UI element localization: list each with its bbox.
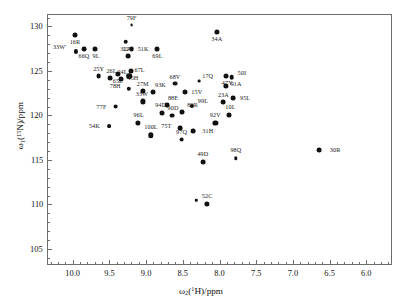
y-axis-minor-tick	[47, 258, 50, 259]
peak-label: 67L	[134, 67, 144, 73]
x-axis-tick-label: 10.0	[65, 269, 80, 278]
x-axis-major-tick	[109, 260, 110, 265]
x-axis-minor-tick	[58, 262, 59, 265]
y-axis-tick-label: 105	[30, 244, 43, 253]
peak-marker	[224, 73, 229, 78]
x-axis-minor-tick	[197, 262, 198, 265]
x-axis-minor-tick	[190, 262, 191, 265]
y-axis-minor-tick	[47, 98, 50, 99]
peak-label: 77F	[97, 104, 107, 110]
peak-label: 75T	[161, 123, 171, 129]
x-axis-major-tick	[256, 260, 257, 265]
y-axis-minor-tick	[47, 142, 50, 143]
x-axis-minor-tick	[322, 262, 323, 265]
peak-marker	[96, 74, 101, 79]
peak-marker	[128, 69, 133, 74]
y-axis-minor-tick	[47, 196, 50, 197]
peak-marker	[316, 148, 321, 153]
y-axis-minor-tick	[47, 124, 50, 125]
peak-label: 100L	[144, 124, 157, 130]
x-axis-minor-tick	[249, 262, 250, 265]
x-axis-minor-tick	[117, 262, 118, 265]
peak-label: 96L	[134, 112, 144, 118]
peak-marker	[150, 89, 155, 94]
peak-label: 50I	[238, 70, 247, 76]
y-axis-subscript: 1	[19, 140, 26, 143]
peak-marker	[214, 29, 219, 34]
peak-label: 45H	[127, 75, 138, 81]
peak-marker	[113, 104, 118, 109]
peak-label: 23A	[218, 92, 229, 98]
x-axis-major-tick	[73, 260, 74, 265]
x-axis-minor-tick	[124, 262, 125, 265]
y-axis-nucleus: N	[15, 124, 25, 131]
nmr-hsqc-spectrum-figure: 52C49D98Q30R100L97Q75T31H54K96L92V94D90D…	[0, 0, 402, 299]
x-axis-minor-tick	[227, 262, 228, 265]
peak-marker	[165, 102, 170, 107]
y-axis-major-tick	[47, 26, 52, 27]
peak-label: 66Q	[78, 53, 89, 59]
x-axis-minor-tick	[95, 262, 96, 265]
x-axis-minor-tick	[278, 262, 279, 265]
peak-label: 15V	[191, 89, 202, 95]
y-axis-minor-tick	[47, 240, 50, 241]
x-axis-major-tick	[183, 260, 184, 265]
plot-frame: 52C49D98Q30R100L97Q75T31H54K96L92V94D90D…	[47, 14, 392, 265]
peak-label: 98Q	[230, 147, 241, 153]
peak-marker	[170, 113, 175, 118]
x-axis-minor-tick	[102, 262, 103, 265]
peak-marker	[107, 124, 111, 128]
peak-label: 16R	[70, 39, 81, 45]
y-axis-mass-number: 15	[14, 131, 21, 137]
x-axis-minor-tick	[212, 262, 213, 265]
x-axis-units: )/ppm	[201, 286, 223, 296]
x-axis-minor-tick	[168, 262, 169, 265]
x-axis-minor-tick	[337, 262, 338, 265]
y-axis-minor-tick	[47, 213, 50, 214]
peak-marker	[173, 81, 178, 86]
y-axis-tick-label: 125	[30, 66, 43, 75]
peak-marker	[73, 32, 78, 37]
peak-label: 49D	[197, 151, 208, 157]
y-axis-minor-tick	[47, 151, 50, 152]
peak-marker	[135, 120, 140, 125]
peak-label: 30R	[330, 147, 341, 153]
y-axis-minor-tick	[47, 133, 50, 134]
peak-marker	[195, 199, 197, 201]
y-axis-minor-tick	[47, 222, 50, 223]
y-axis-label: ω1(15N)/ppm	[14, 66, 25, 186]
peak-label: 32A	[120, 46, 131, 52]
peak-marker	[180, 110, 185, 115]
peak-label: 47Y	[222, 80, 233, 86]
peak-label: 68V	[169, 74, 180, 80]
x-axis-minor-tick	[308, 262, 309, 265]
peak-marker	[231, 95, 236, 100]
x-axis-minor-tick	[80, 262, 81, 265]
x-axis-minor-tick	[388, 262, 389, 265]
peak-label: 88E	[168, 95, 178, 101]
x-axis-minor-tick	[205, 262, 206, 265]
x-axis-minor-tick	[242, 262, 243, 265]
y-axis-major-tick	[47, 115, 52, 116]
peak-label: 79F	[127, 15, 137, 21]
peak-marker	[127, 87, 131, 91]
peak-label: 52C	[202, 193, 213, 199]
y-axis-minor-tick	[47, 187, 50, 188]
peak-marker	[92, 46, 97, 51]
x-axis-major-tick	[330, 260, 331, 265]
x-axis-tick-label: 9.5	[104, 269, 114, 278]
peak-label: 51K	[138, 46, 149, 52]
peak-label: 9L	[92, 53, 99, 59]
y-axis-minor-tick	[47, 107, 50, 108]
x-axis-tick-label: 6.5	[324, 269, 334, 278]
x-axis-major-tick	[146, 260, 147, 265]
y-axis-major-tick	[47, 204, 52, 205]
x-axis-minor-tick	[344, 262, 345, 265]
x-axis-minor-tick	[131, 262, 132, 265]
peak-label: 34A	[211, 36, 222, 42]
peak-marker	[234, 157, 237, 160]
peak-marker	[191, 128, 196, 133]
peak-label: 69L	[152, 53, 162, 59]
x-axis-tick-label: 8.5	[178, 269, 188, 278]
x-axis-tick-label: 7.0	[288, 269, 298, 278]
